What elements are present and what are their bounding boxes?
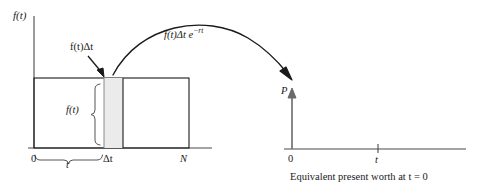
discount-flow-label: f(t)Δt e−rt — [164, 27, 203, 40]
right-x-label-t: t — [375, 155, 378, 166]
left-x-label-N: N — [180, 154, 187, 165]
f-of-t-height-brace — [91, 84, 100, 145]
diagram-canvas — [0, 0, 478, 192]
present-worth-arrowhead — [288, 88, 296, 98]
strip-label: f(t)Δt — [70, 42, 93, 53]
right-y-axis-label: P — [281, 86, 287, 97]
block-height-label: f(t) — [66, 105, 79, 116]
left-x-label-delta-t: Δt — [103, 154, 113, 165]
discount-flow-label-exponent: −rt — [193, 26, 203, 35]
discount-flow-label-base: f(t)Δt e — [164, 29, 193, 40]
right-x-label-origin: 0 — [288, 154, 293, 165]
discount-flow-arrowhead — [280, 67, 292, 80]
figure-caption: Equivalent present worth at t = 0 — [290, 172, 428, 183]
left-y-axis-label: f(t) — [13, 10, 26, 21]
strip-pointer-arrowhead — [97, 68, 104, 77]
delta-t-strip-fill — [104, 78, 123, 148]
left-x-label-origin: 0 — [31, 154, 36, 165]
cash-flow-diagram: f(t) f(t)Δt f(t)Δt e−rt f(t) 0 t Δt N P … — [0, 0, 478, 192]
left-x-label-t: t — [66, 160, 69, 171]
